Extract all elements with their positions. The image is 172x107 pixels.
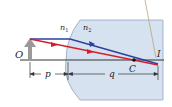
label-center: C: [129, 64, 136, 74]
label-q: q: [109, 69, 115, 79]
label-object: O: [15, 49, 23, 60]
label-p: p: [45, 69, 51, 79]
object-arrow-icon: [24, 38, 36, 60]
label-image: I: [156, 49, 161, 59]
refraction-diagram: O I C n1 n2 p q: [0, 0, 172, 107]
center-of-curvature-dot: [132, 58, 136, 62]
label-n1: n1: [60, 23, 68, 33]
